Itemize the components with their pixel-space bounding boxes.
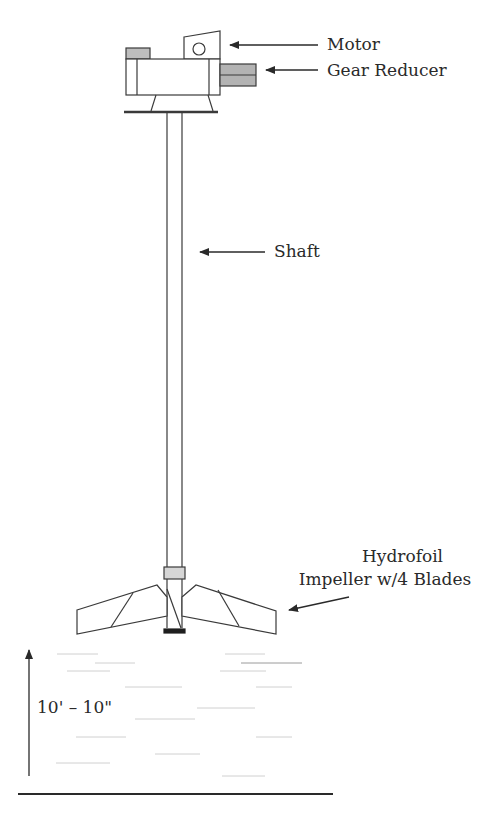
- gear-reducer-label: Gear Reducer: [327, 60, 447, 80]
- impeller-label-line1: Hydrofoil: [340, 546, 465, 566]
- shaft-label: Shaft: [274, 241, 320, 261]
- impeller-nut: [164, 629, 185, 633]
- motor-circle: [193, 43, 205, 55]
- impeller-label-line2: Impeller w/4 Blades: [290, 569, 480, 589]
- height-dimension-label: 10' – 10": [37, 697, 112, 717]
- drive-assembly: [124, 31, 256, 112]
- hydrofoil-impeller: [77, 567, 276, 634]
- shaft: [167, 113, 182, 567]
- housing: [126, 59, 220, 95]
- impeller-arrow: [289, 597, 349, 610]
- motor-label: Motor: [327, 34, 380, 54]
- hub-collar: [164, 567, 185, 579]
- callout-arrows: [200, 45, 349, 610]
- junction-box: [126, 48, 150, 59]
